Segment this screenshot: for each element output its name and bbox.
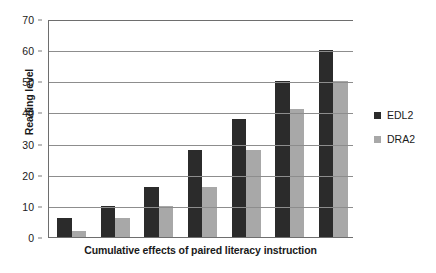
bar-dra2-group-4[interactable] [202, 187, 217, 237]
legend-label-dra2: DRA2 [387, 134, 415, 144]
bar-group-3 [136, 20, 180, 237]
bar-edl2-group-2[interactable] [101, 206, 116, 237]
bar-series-container [49, 20, 353, 237]
y-tick-mark-70 [38, 20, 42, 21]
legend-item-edl2[interactable]: EDL2 [374, 110, 434, 120]
gridline-30 [49, 145, 353, 146]
bar-edl2-group-4[interactable] [188, 150, 203, 237]
gridline-40 [49, 113, 353, 114]
bar-group-5 [223, 20, 267, 237]
bar-dra2-group-7[interactable] [333, 81, 348, 237]
y-tick-mark-20 [38, 175, 42, 176]
bar-dra2-group-3[interactable] [159, 206, 174, 237]
y-tick-label-40: 40 [22, 108, 34, 118]
y-tick-mark-30 [38, 144, 42, 145]
legend-item-dra2[interactable]: DRA2 [374, 134, 434, 144]
y-tick-mark-0 [38, 238, 42, 239]
gridline-50 [49, 82, 353, 83]
gridline-60 [49, 51, 353, 52]
chart-legend: EDL2 DRA2 [374, 110, 434, 158]
gridline-10 [49, 207, 353, 208]
bar-dra2-group-2[interactable] [115, 218, 130, 237]
y-tick-mark-40 [38, 113, 42, 114]
y-tick-mark-10 [38, 206, 42, 207]
bar-edl2-group-6[interactable] [275, 81, 290, 237]
legend-label-edl2: EDL2 [387, 110, 413, 120]
bar-group-7 [310, 20, 354, 237]
y-axis-tick-labels: 010203040506070 [0, 0, 44, 273]
bar-dra2-group-5[interactable] [246, 150, 261, 237]
bar-dra2-group-1[interactable] [72, 231, 87, 237]
y-tick-label-0: 0 [28, 233, 34, 243]
y-tick-mark-50 [38, 82, 42, 83]
gridline-20 [49, 176, 353, 177]
bar-group-1 [49, 20, 93, 237]
y-tick-label-60: 60 [22, 46, 34, 56]
y-tick-label-30: 30 [22, 140, 34, 150]
bar-group-2 [93, 20, 137, 237]
bar-edl2-group-5[interactable] [232, 119, 247, 237]
bar-dra2-group-6[interactable] [290, 109, 305, 237]
bar-edl2-group-1[interactable] [57, 218, 72, 237]
plot-area [48, 20, 353, 238]
y-tick-label-70: 70 [22, 15, 34, 25]
bar-edl2-group-3[interactable] [144, 187, 159, 237]
legend-swatch-dra2-icon [374, 136, 381, 143]
gridline-70 [49, 20, 353, 21]
y-tick-label-20: 20 [22, 171, 34, 181]
bar-group-6 [267, 20, 311, 237]
y-tick-label-10: 10 [22, 202, 34, 212]
legend-swatch-edl2-icon [374, 112, 381, 119]
bar-chart: Reading level 010203040506070 Cumulative… [0, 0, 436, 273]
y-tick-label-50: 50 [22, 77, 34, 87]
y-tick-mark-60 [38, 51, 42, 52]
x-axis-title: Cumulative effects of paired literacy in… [48, 244, 353, 256]
bar-group-4 [180, 20, 224, 237]
